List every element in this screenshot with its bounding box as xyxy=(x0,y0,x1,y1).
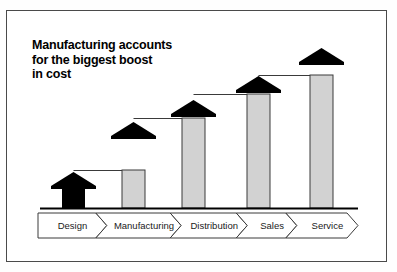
arrow-bar-design xyxy=(51,172,96,208)
arrowhead-icon xyxy=(51,172,96,189)
arrowhead-icon xyxy=(171,100,216,117)
arrow-bars xyxy=(51,48,344,208)
bar-segment-base xyxy=(182,118,205,208)
bar-segment-base xyxy=(247,94,270,208)
chevron-label-service: Service xyxy=(297,220,358,231)
chevron-label-sales: Sales xyxy=(247,220,297,231)
arrow-bar-distribution xyxy=(171,100,216,208)
arrowhead-icon xyxy=(299,48,344,65)
arrowhead-icon xyxy=(111,122,156,139)
arrow-bar-manufacturing xyxy=(111,122,156,208)
arrow-bar-service xyxy=(299,48,344,208)
bar-segment-boost xyxy=(62,189,85,208)
chevron-label-manufacturing: Manufacturing xyxy=(107,220,181,231)
chart-figure: Manufacturing accounts for the biggest b… xyxy=(0,0,397,272)
arrow-bar-chart xyxy=(0,0,397,272)
arrowhead-icon xyxy=(236,76,281,93)
chevron-label-distribution: Distribution xyxy=(181,220,247,231)
chevron-label-design: Design xyxy=(38,220,107,231)
bar-segment-base xyxy=(122,170,145,208)
arrow-bar-sales xyxy=(236,76,281,208)
bar-segment-base xyxy=(310,75,333,208)
